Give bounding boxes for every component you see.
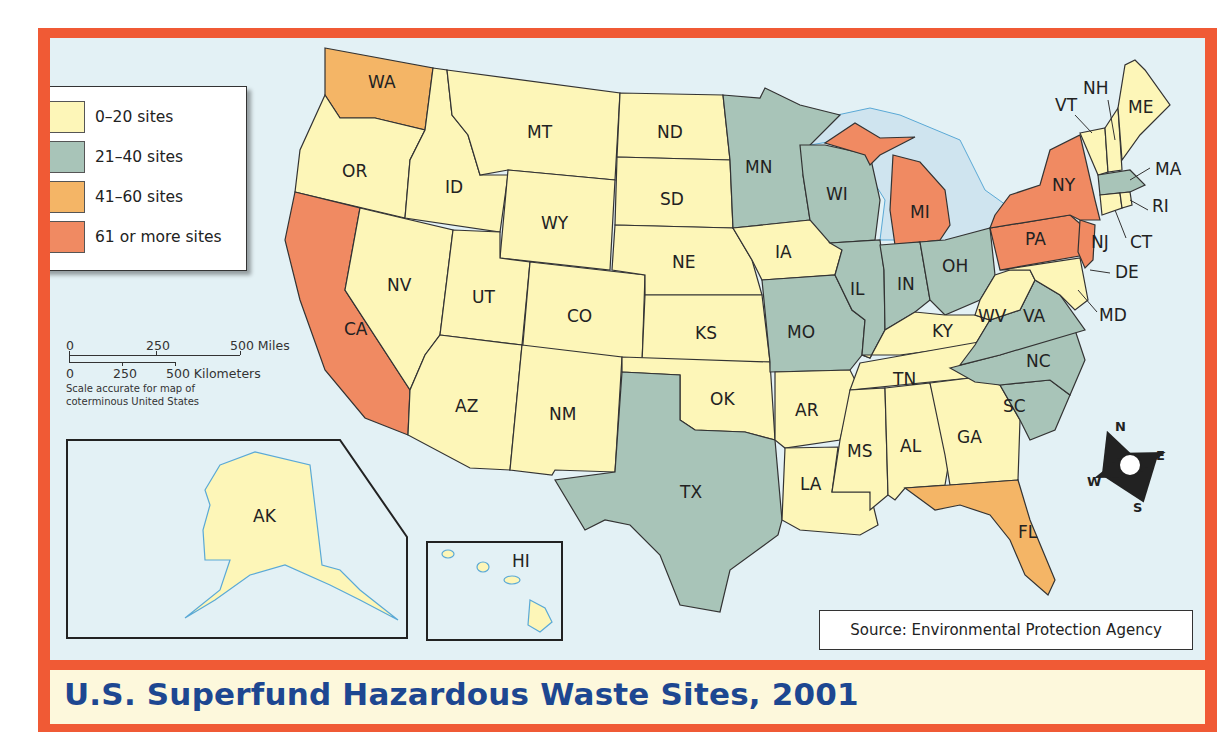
svg-text:KS: KS [695,323,717,343]
legend-item: 41–60 sites [50,181,183,213]
compass-rose-icon: N E S W [1087,419,1172,515]
svg-text:WA: WA [368,72,396,92]
svg-text:NV: NV [387,275,412,295]
svg-text:AR: AR [795,400,819,420]
svg-text:UT: UT [472,287,495,307]
svg-text:OK: OK [710,389,735,409]
svg-text:WI: WI [826,184,848,204]
svg-text:SD: SD [660,189,684,209]
svg-text:MA: MA [1155,159,1182,179]
state-HI[interactable] [528,600,552,632]
legend-swatch [50,221,85,253]
svg-text:CT: CT [1130,232,1153,252]
alaska-inset: AK [67,440,407,638]
hawaii-inset: HI [427,542,562,640]
svg-text:DE: DE [1115,262,1139,282]
svg-text:MN: MN [745,157,772,177]
map-legend: 0–20 sites 21–40 sites 41–60 sites 61 or… [50,86,247,271]
legend-swatch [50,141,85,173]
legend-swatch [50,101,85,133]
svg-text:S: S [1133,500,1142,515]
svg-text:AZ: AZ [455,396,478,416]
svg-text:CA: CA [344,319,368,339]
svg-text:SC: SC [1003,396,1026,416]
svg-text:TN: TN [892,369,916,389]
legend-item: 0–20 sites [50,101,173,133]
legend-item: 21–40 sites [50,141,183,173]
svg-text:NH: NH [1083,78,1109,98]
svg-text:NY: NY [1052,175,1076,195]
svg-text:CO: CO [567,306,592,326]
svg-text:IA: IA [775,242,792,262]
svg-text:PA: PA [1025,229,1046,249]
svg-text:NE: NE [672,252,695,272]
svg-text:OH: OH [942,256,968,276]
legend-label: 0–20 sites [95,108,173,126]
svg-text:W: W [1087,474,1101,489]
svg-text:IL: IL [850,279,865,299]
svg-text:MD: MD [1099,305,1127,325]
legend-label: 41–60 sites [95,188,183,206]
svg-text:MI: MI [910,202,930,222]
title-band: U.S. Superfund Hazardous Waste Sites, 20… [50,670,1205,724]
map-title: U.S. Superfund Hazardous Waste Sites, 20… [64,676,859,712]
svg-text:MT: MT [527,122,553,142]
svg-text:AL: AL [900,436,922,456]
svg-text:VT: VT [1055,95,1078,115]
svg-text:FL: FL [1018,522,1038,542]
svg-text:RI: RI [1152,196,1169,216]
svg-text:LA: LA [800,474,822,494]
legend-swatch [50,181,85,213]
map-area: .y{fill:#fdf6b8;stroke:#333;stroke-width… [50,38,1205,660]
svg-text:MO: MO [787,322,815,342]
legend-label: 61 or more sites [95,228,222,246]
svg-text:WV: WV [978,306,1007,326]
svg-text:MS: MS [847,441,872,461]
svg-text:TX: TX [679,482,702,502]
svg-text:AK: AK [253,506,277,526]
scale-bar: 0 250 500 Miles 0 250 500 Kilometers Sca… [66,338,296,428]
svg-text:ME: ME [1128,97,1153,117]
state-MA[interactable] [1098,170,1145,195]
svg-text:HI: HI [512,551,530,571]
svg-text:NC: NC [1026,351,1051,371]
svg-text:N: N [1115,419,1126,434]
svg-text:ID: ID [445,177,463,197]
legend-label: 21–40 sites [95,148,183,166]
svg-text:NJ: NJ [1091,232,1109,252]
svg-text:IN: IN [897,274,915,294]
svg-text:OR: OR [342,161,367,181]
svg-text:KY: KY [932,321,954,341]
svg-text:VA: VA [1023,306,1046,326]
source-caption: Source: Environmental Protection Agency [819,610,1193,650]
state-NY[interactable] [990,135,1100,228]
svg-text:ND: ND [657,122,683,142]
legend-item: 61 or more sites [50,221,222,253]
svg-text:E: E [1156,448,1165,463]
svg-text:NM: NM [549,404,576,424]
state-CT[interactable] [1100,193,1122,215]
svg-text:GA: GA [957,427,982,447]
svg-text:WY: WY [541,213,569,233]
